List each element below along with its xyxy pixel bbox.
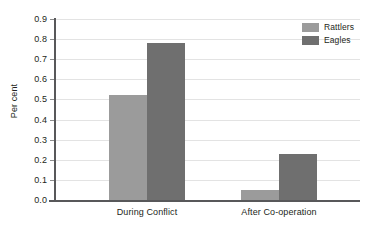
y-axis-line [54,18,56,200]
y-tick-label: 0.2 [34,155,47,165]
plot-area: 0.00.10.20.30.40.50.60.70.80.9 During Co… [55,19,360,200]
bar-chart: Per cent 0.00.10.20.30.40.50.60.70.80.9 … [0,0,369,237]
gridline [55,140,360,141]
y-tick-label: 0.4 [34,115,47,125]
y-tick-label: 0.6 [34,74,47,84]
y-tick-label: 0.0 [34,195,47,205]
category-label: During Conflict [117,207,178,217]
y-tick-label: 0.8 [34,34,47,44]
bar-eagles-0 [147,43,185,200]
legend-label: Eagles [324,35,351,45]
y-tick-label: 0.9 [34,14,47,24]
y-tick-label: 0.3 [34,135,47,145]
x-axis-line [49,200,360,202]
category-label: After Co-operation [241,207,316,217]
gridline [55,120,360,121]
gridline [55,79,360,80]
bar-rattlers-1 [241,190,279,200]
bar-rattlers-0 [109,95,147,200]
y-axis-title: Per cent [9,56,19,146]
gridline [55,99,360,100]
y-tick-label: 0.7 [34,54,47,64]
legend-item-eagles: Eagles [302,35,354,45]
gridline [55,19,360,20]
y-tick-label: 0.5 [34,94,47,104]
legend-label: Rattlers [324,22,354,32]
y-tick-label: 0.1 [34,175,47,185]
legend-swatch-rattlers [302,23,319,32]
bar-eagles-1 [279,154,317,200]
gridline [55,59,360,60]
legend-item-rattlers: Rattlers [302,22,354,32]
legend-swatch-eagles [302,36,319,45]
legend: RattlersEagles [302,22,354,45]
